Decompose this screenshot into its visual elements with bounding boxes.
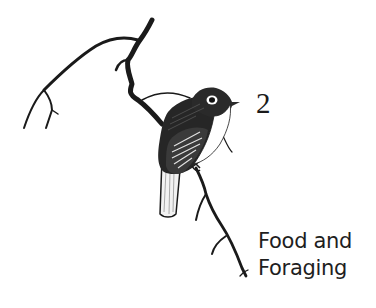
chapter-title-line-2: Foraging [258,255,352,282]
chapter-number: 2 [256,88,271,118]
chapter-title-line-1: Food and [258,228,352,255]
chapter-title: Food and Foraging [258,228,352,282]
bird [158,88,240,218]
